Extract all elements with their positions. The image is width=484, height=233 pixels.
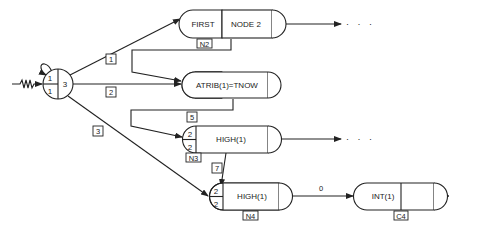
- activity-1-label: 1: [109, 55, 113, 64]
- activity-7-label: 7: [215, 164, 219, 173]
- activity-5-label: 5: [190, 113, 194, 122]
- c4-text: INT(1): [372, 192, 395, 201]
- activity-3-label: 3: [96, 127, 100, 136]
- tag-n3: N3: [189, 154, 199, 163]
- n4-text: HIGH(1): [237, 192, 267, 201]
- activity-0-label: 0: [319, 184, 323, 193]
- collect-node-c4: INT(1) C4: [354, 183, 448, 221]
- first-node-2: FIRST NODE 2 N2: [179, 10, 286, 49]
- entity-arrival-icon: [12, 80, 42, 88]
- tag-n4: N4: [246, 212, 256, 221]
- create-node-right: 3: [63, 80, 68, 89]
- activity-2-label: 2: [109, 88, 113, 97]
- n3-top: 2: [188, 130, 193, 139]
- slam-network-diagram: 1 1 3 1 2 3 FIRST NODE 2 N2 · · · ATRIB(…: [0, 0, 484, 233]
- create-node: 1 1 3: [41, 64, 73, 99]
- assign-node: ATRIB(1)=TNOW: [182, 72, 281, 98]
- n4-bottom: 2: [214, 200, 219, 209]
- activity-1-arrow: [70, 19, 180, 75]
- first-node-right-text: NODE 2: [231, 20, 261, 29]
- queue-node-n3: 2 2 HIGH(1) N3: [183, 126, 282, 163]
- create-node-top: 1: [48, 74, 53, 83]
- continuation-dots-n3: · · ·: [346, 134, 375, 144]
- tag-n2: N2: [200, 40, 210, 49]
- first-node-left-text: FIRST: [191, 20, 214, 29]
- queue-node-n4: 2 2 HIGH(1) N4: [210, 183, 293, 221]
- assign-node-text: ATRIB(1)=TNOW: [196, 81, 258, 90]
- n3-bottom: 2: [188, 143, 193, 152]
- continuation-dots: · · ·: [346, 19, 375, 29]
- create-node-bottom: 1: [48, 87, 53, 96]
- n4-top: 2: [214, 187, 219, 196]
- tag-c4: C4: [396, 212, 406, 221]
- n3-text: HIGH(1): [216, 135, 246, 144]
